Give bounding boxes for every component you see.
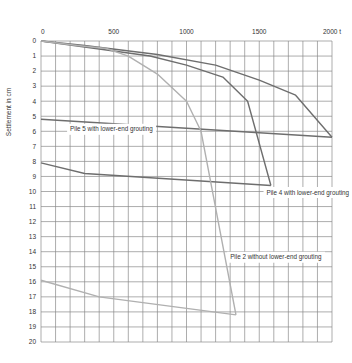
y-tick-label: 9 [32, 173, 36, 180]
x-tick-label: 1500 [252, 28, 267, 35]
y-tick-label: 1 [32, 52, 36, 59]
y-tick-label: 19 [29, 323, 37, 330]
series-annotations: Pile 5 with lower-end groutingPile 4 wit… [67, 124, 352, 263]
y-tick-label: 7 [32, 143, 36, 150]
y-tick-label: 20 [29, 338, 37, 345]
y-tick-label: 13 [29, 233, 37, 240]
y-axis-label: Settlement in cm [5, 88, 12, 136]
series-annotation: Pile 5 with lower-end grouting [70, 125, 153, 133]
y-tick-label: 14 [29, 248, 37, 255]
y-tick-label: 16 [29, 278, 37, 285]
y-tick-label: 5 [32, 113, 36, 120]
y-tick-label: 4 [32, 98, 36, 105]
y-axis-ticks: 01234567891011121314151617181920 [29, 37, 37, 345]
x-axis-ticks: 0500100015002000 t [41, 28, 341, 35]
series-line-unloading [41, 163, 271, 186]
y-tick-label: 8 [32, 158, 36, 165]
y-tick-label: 6 [32, 128, 36, 135]
series-annotation: Pile 4 with lower-end grouting [267, 189, 350, 197]
y-tick-label: 15 [29, 263, 37, 270]
x-tick-label: 0 [41, 28, 45, 35]
y-tick-label: 2 [32, 67, 36, 74]
y-tick-label: 17 [29, 293, 37, 300]
y-tick-label: 3 [32, 82, 36, 89]
y-tick-label: 12 [29, 218, 37, 225]
y-tick-label: 0 [32, 37, 36, 44]
settlement-chart: 0500100015002000 t 012345678910111213141… [0, 0, 352, 363]
y-tick-label: 11 [29, 203, 36, 210]
y-tick-label: 10 [29, 188, 37, 195]
x-tick-label: 500 [108, 28, 119, 35]
x-tick-label: 2000 t [323, 28, 341, 35]
x-tick-label: 1000 [179, 28, 194, 35]
y-tick-label: 18 [29, 308, 37, 315]
series-annotation: Pile 2 without lower-end grouting [230, 253, 322, 261]
series-line-loading [41, 41, 271, 185]
